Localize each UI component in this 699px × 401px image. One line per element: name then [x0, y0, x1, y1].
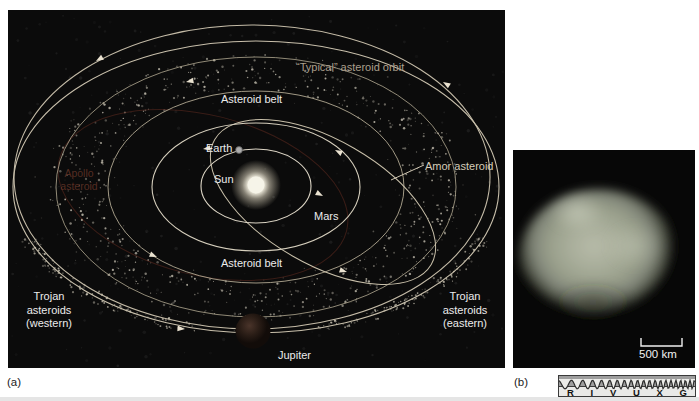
speckle-dot — [86, 231, 88, 233]
speckle-dot — [154, 45, 157, 48]
speckle-dot — [105, 233, 107, 235]
speckle-dot — [287, 337, 289, 339]
speckle-dot — [330, 94, 331, 95]
speckle-dot — [375, 257, 376, 258]
speckle-dot — [53, 148, 54, 149]
speckle-dot — [328, 323, 329, 324]
speckle-dot — [52, 200, 53, 201]
speckle-dot — [336, 78, 338, 80]
speckle-dot — [264, 68, 265, 69]
speckle-dot — [170, 310, 172, 312]
speckle-dot — [138, 49, 141, 52]
speckle-dot — [148, 287, 149, 288]
speckle-dot — [28, 65, 29, 66]
speckle-dot — [158, 68, 160, 70]
speckle-dot — [220, 289, 222, 291]
speckle-dot — [115, 253, 116, 254]
asteroid-bright-patch-2 — [605, 222, 665, 270]
speckle-dot — [310, 75, 311, 76]
speckle-dot — [240, 313, 242, 315]
speckle-dot — [355, 277, 356, 278]
speckle-dot — [418, 218, 420, 220]
speckle-dot — [282, 295, 283, 296]
speckle-dot — [230, 290, 231, 291]
speckle-dot — [232, 65, 234, 67]
speckle-dot — [406, 316, 409, 319]
speckle-dot — [330, 110, 331, 111]
speckle-dot — [275, 74, 276, 75]
speckle-dot — [251, 68, 253, 70]
speckle-dot — [374, 309, 376, 311]
speckle-dot — [360, 335, 363, 338]
speckle-dot — [408, 245, 409, 246]
speckle-dot — [345, 133, 348, 136]
speckle-dot — [413, 268, 414, 269]
speckle-dot — [373, 74, 374, 75]
speckle-dot — [422, 289, 423, 290]
speckle-dot — [388, 120, 389, 121]
asteroid-dark-patch — [551, 280, 635, 324]
speckle-dot — [344, 100, 346, 102]
speckle-dot — [144, 93, 146, 95]
speckle-dot — [340, 88, 342, 90]
speckle-dot — [100, 240, 102, 242]
speckle-dot — [440, 179, 442, 181]
speckle-dot — [211, 90, 215, 94]
speckle-dot — [470, 261, 472, 263]
speckle-dot — [227, 85, 229, 87]
speckle-dot — [69, 128, 70, 129]
speckle-dot — [206, 58, 208, 60]
speckle-dot — [136, 312, 137, 313]
speckle-dot — [176, 66, 177, 67]
speckle-dot — [413, 303, 414, 304]
speckle-dot — [446, 209, 448, 211]
typical-asteroid-orbit-label: “Typical” asteroid orbit — [296, 61, 404, 74]
speckle-dot — [124, 136, 125, 137]
speckle-dot — [85, 210, 86, 211]
speckle-dot — [293, 305, 295, 307]
speckle-dot — [183, 97, 185, 99]
speckle-dot — [424, 206, 425, 207]
speckle-dot — [186, 284, 188, 286]
speckle-dot — [75, 260, 76, 261]
speckle-dot — [162, 274, 163, 275]
speckle-dot — [97, 210, 99, 212]
speckle-dot — [416, 151, 417, 152]
speckle-dot — [169, 281, 171, 283]
speckle-dot — [345, 300, 347, 302]
speckle-dot — [213, 103, 214, 104]
speckle-dot — [28, 111, 32, 115]
speckle-dot — [410, 190, 411, 191]
speckle-dot — [106, 205, 107, 206]
speckle-dot — [436, 281, 438, 283]
speckle-dot — [289, 291, 291, 293]
speckle-dot — [343, 267, 345, 269]
speckle-dot — [325, 77, 327, 79]
speckle-dot — [99, 145, 100, 146]
speckle-dot — [271, 319, 272, 320]
speckle-dot — [11, 335, 12, 336]
speckle-dot — [53, 263, 54, 264]
speckle-dot — [190, 106, 192, 108]
speckle-dot — [389, 295, 392, 298]
speckle-dot — [104, 227, 106, 229]
speckle-dot — [422, 231, 424, 233]
speckle-dot — [71, 162, 73, 164]
speckle-dot — [409, 212, 411, 214]
speckle-dot — [188, 72, 189, 73]
speckle-dot — [275, 287, 276, 288]
speckle-dot — [411, 113, 412, 114]
speckle-dot — [395, 24, 397, 26]
speckle-dot — [345, 256, 348, 259]
speckle-dot — [119, 229, 120, 230]
speckle-dot — [161, 314, 162, 315]
speckle-dot — [186, 86, 187, 87]
speckle-dot — [433, 277, 435, 279]
speckle-dot — [69, 222, 71, 224]
speckle-dot — [85, 359, 88, 362]
speckle-dot — [133, 185, 135, 187]
speckle-dot — [119, 233, 121, 235]
speckle-dot — [311, 331, 312, 332]
speckle-dot — [441, 220, 443, 222]
speckle-dot — [414, 248, 416, 250]
